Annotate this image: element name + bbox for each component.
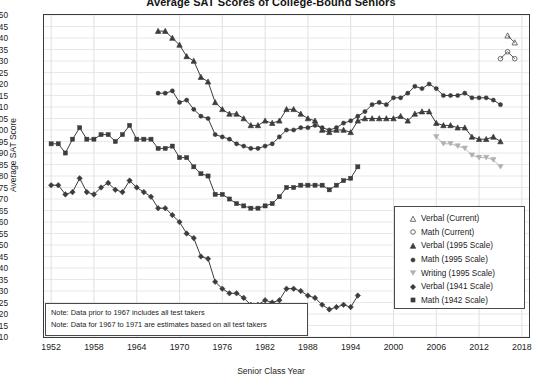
y-axis-tick: 505 bbox=[0, 114, 8, 124]
square-filled-icon bbox=[404, 295, 421, 305]
x-axis-tick: 1994 bbox=[341, 342, 361, 352]
x-axis-tick: 1982 bbox=[255, 342, 275, 352]
y-axis-tick: 525 bbox=[0, 68, 8, 78]
y-axis-tick: 495 bbox=[0, 137, 8, 147]
x-axis-tick: 1988 bbox=[298, 342, 318, 352]
series-2 bbox=[498, 50, 517, 62]
x-axis-tick: 1964 bbox=[127, 342, 147, 352]
legend-item[interactable]: Verbal (1995 Scale) bbox=[395, 239, 524, 253]
legend-label: Verbal (1995 Scale) bbox=[421, 241, 493, 250]
note-line: Note: Data for 1967 to 1971 are estimate… bbox=[51, 319, 302, 331]
x-axis-tick: 1952 bbox=[41, 342, 61, 352]
series-4 bbox=[156, 82, 503, 151]
triangle-open-icon bbox=[404, 214, 421, 224]
legend-label: Math (1942 Scale) bbox=[421, 296, 488, 305]
y-axis-tick: 480 bbox=[0, 171, 8, 181]
legend-item[interactable]: Math (1942 Scale) bbox=[395, 294, 524, 308]
series-3 bbox=[155, 28, 503, 144]
y-axis-tick: 510 bbox=[0, 102, 8, 112]
legend-item[interactable]: Verbal (1941 Scale) bbox=[395, 280, 524, 294]
x-axis-tick: 2000 bbox=[384, 342, 404, 352]
y-axis-tick: 475 bbox=[0, 183, 8, 193]
y-axis-tick: 450 bbox=[0, 240, 8, 250]
legend-label: Writing (1995 Scale) bbox=[421, 269, 495, 278]
x-axis-tick: 1976 bbox=[213, 342, 233, 352]
y-axis-tick: 470 bbox=[0, 194, 8, 204]
series-5 bbox=[434, 135, 504, 170]
x-axis-tick: 2012 bbox=[469, 342, 489, 352]
legend: Verbal (Current)Math (Current)Verbal (19… bbox=[394, 206, 525, 309]
notes-box: Note: Data prior to 1967 includes all te… bbox=[45, 303, 308, 336]
y-axis-tick: 430 bbox=[0, 286, 8, 296]
y-axis-tick: 420 bbox=[0, 309, 8, 319]
y-axis-tick: 545 bbox=[0, 22, 8, 32]
diamond-filled-icon bbox=[404, 282, 421, 292]
y-axis-tick: 465 bbox=[0, 206, 8, 216]
y-axis-tick: 410 bbox=[0, 332, 8, 342]
legend-item[interactable]: Math (Current) bbox=[395, 226, 524, 240]
legend-label: Math (Current) bbox=[421, 228, 474, 237]
y-axis-tick: 415 bbox=[0, 321, 8, 331]
x-axis-tick: 2006 bbox=[426, 342, 446, 352]
y-axis-tick: 520 bbox=[0, 79, 8, 89]
y-axis-tick: 485 bbox=[0, 160, 8, 170]
y-axis-tick: 550 bbox=[0, 10, 8, 20]
legend-label: Verbal (1941 Scale) bbox=[421, 282, 493, 291]
x-axis-tick: 2018 bbox=[512, 342, 532, 352]
triangle-filled-icon bbox=[404, 241, 421, 251]
y-axis-tick: 425 bbox=[0, 298, 8, 308]
series-6 bbox=[48, 176, 360, 313]
y-axis-tick: 500 bbox=[0, 125, 8, 135]
y-axis-tick: 490 bbox=[0, 148, 8, 158]
y-axis-tick: 535 bbox=[0, 45, 8, 55]
legend-item[interactable]: Writing (1995 Scale) bbox=[395, 266, 524, 280]
x-axis-tick: 1958 bbox=[84, 342, 104, 352]
circle-filled-icon bbox=[404, 255, 421, 265]
note-line: Note: Data prior to 1967 includes all te… bbox=[51, 307, 302, 319]
y-axis-tick: 445 bbox=[0, 252, 8, 262]
legend-item[interactable]: Math (1995 Scale) bbox=[395, 253, 524, 267]
y-axis-tick: 540 bbox=[0, 33, 8, 43]
y-axis-tick: 530 bbox=[0, 56, 8, 66]
x-axis-tick: 1970 bbox=[170, 342, 190, 352]
y-axis-tick: 435 bbox=[0, 275, 8, 285]
y-axis-tick: 515 bbox=[0, 91, 8, 101]
triangle-down-light-icon bbox=[404, 268, 421, 278]
legend-label: Verbal (Current) bbox=[421, 214, 479, 223]
y-axis-tick: 460 bbox=[0, 217, 8, 227]
series-1 bbox=[505, 33, 518, 45]
circle-open-icon bbox=[404, 227, 421, 237]
y-axis-tick: 440 bbox=[0, 263, 8, 273]
series-7 bbox=[49, 123, 360, 210]
legend-label: Math (1995 Scale) bbox=[421, 255, 488, 264]
y-axis-tick: 455 bbox=[0, 229, 8, 239]
legend-item[interactable]: Verbal (Current) bbox=[395, 212, 524, 226]
